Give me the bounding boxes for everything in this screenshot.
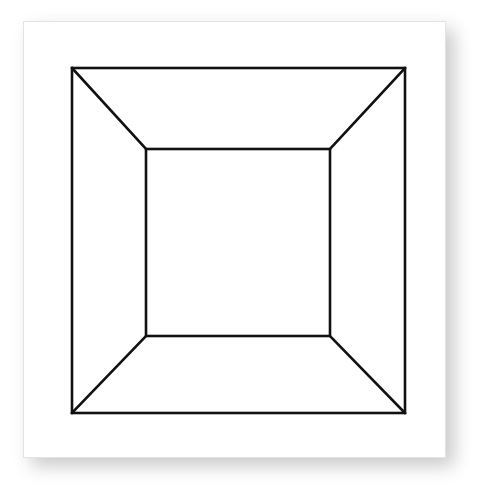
- diagonal-top-right: [330, 68, 405, 149]
- inner-square: [146, 149, 330, 336]
- square-frustum-figure: Line drawing of a truncated pyramid seen…: [24, 22, 447, 459]
- figure-card: Line drawing of a truncated pyramid seen…: [23, 21, 446, 458]
- frustum-line-group: [72, 68, 405, 413]
- page-root: Line drawing of a truncated pyramid seen…: [0, 0, 479, 488]
- diagonal-bottom-left: [72, 336, 146, 413]
- diagonal-bottom-right: [330, 336, 405, 413]
- diagonal-top-left: [72, 68, 146, 149]
